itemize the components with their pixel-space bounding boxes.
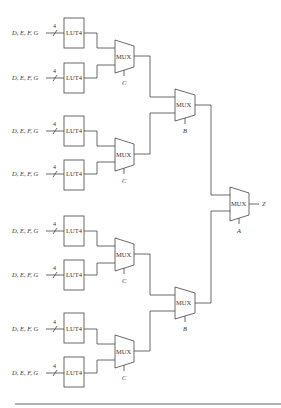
input-label: D, E, F, G bbox=[11, 325, 39, 332]
bus-width: 4 bbox=[53, 319, 56, 325]
input-label: D, E, F, G bbox=[11, 369, 39, 376]
lut-1: D, E, F, G 4 LUT4 bbox=[11, 18, 84, 48]
bus-width: 4 bbox=[53, 68, 56, 74]
select-label: B bbox=[183, 325, 187, 332]
bus-width: 4 bbox=[53, 164, 56, 170]
bottom-rule bbox=[15, 403, 281, 405]
mux-2: MUX C bbox=[115, 138, 134, 184]
bus-width: 4 bbox=[53, 121, 56, 127]
lut-label: LUT4 bbox=[66, 29, 83, 36]
mux-label: MUX bbox=[176, 101, 191, 108]
lut-label: LUT4 bbox=[66, 127, 83, 134]
lut-6: D, E, F, G 4 LUT4 bbox=[11, 260, 84, 290]
select-label: C bbox=[122, 374, 127, 381]
mux-label: MUX bbox=[116, 151, 131, 158]
output-label: Z bbox=[262, 200, 266, 207]
lut-label: LUT4 bbox=[66, 271, 83, 278]
bus-width: 4 bbox=[53, 265, 56, 271]
mux-7: MUX A Z bbox=[230, 187, 266, 234]
mux-3: MUX C bbox=[115, 238, 134, 284]
input-label: D, E, F, G bbox=[11, 29, 39, 36]
lut-mux-tree-diagram: D, E, F, G 4 LUT4 D, E, F, G 4 LUT4 D, E… bbox=[0, 0, 281, 408]
lut-3: D, E, F, G 4 LUT4 bbox=[11, 116, 84, 146]
lut-5: D, E, F, G 4 LUT4 bbox=[11, 216, 84, 246]
bus-width: 4 bbox=[53, 23, 56, 29]
mux-4: MUX C bbox=[115, 335, 134, 381]
select-label: C bbox=[122, 79, 127, 86]
lut-8: D, E, F, G 4 LUT4 bbox=[11, 357, 84, 387]
select-label: A bbox=[236, 227, 241, 234]
input-label: D, E, F, G bbox=[11, 127, 39, 134]
input-label: D, E, F, G bbox=[11, 74, 39, 81]
input-label: D, E, F, G bbox=[11, 170, 39, 177]
select-label: B bbox=[183, 127, 187, 134]
mux-label: MUX bbox=[116, 251, 131, 258]
lut-4: D, E, F, G 4 LUT4 bbox=[11, 160, 84, 190]
lut-label: LUT4 bbox=[66, 74, 83, 81]
bus-width: 4 bbox=[53, 363, 56, 369]
bus-width: 4 bbox=[53, 221, 56, 227]
select-label: C bbox=[122, 177, 127, 184]
lut-label: LUT4 bbox=[66, 227, 83, 234]
mux-label: MUX bbox=[116, 348, 131, 355]
lut-7: D, E, F, G 4 LUT4 bbox=[11, 313, 84, 343]
lut-2: D, E, F, G 4 LUT4 bbox=[11, 63, 84, 93]
mux-6: MUX B bbox=[175, 287, 195, 332]
select-label: C bbox=[122, 277, 127, 284]
input-label: D, E, F, G bbox=[11, 271, 39, 278]
mux-label: MUX bbox=[231, 200, 246, 207]
mux-label: MUX bbox=[176, 299, 191, 306]
lut-label: LUT4 bbox=[66, 170, 83, 177]
lut-label: LUT4 bbox=[66, 325, 83, 332]
mux-label: MUX bbox=[116, 53, 131, 60]
mux-1: MUX C bbox=[115, 40, 134, 86]
mux-5: MUX B bbox=[175, 89, 195, 134]
lut-label: LUT4 bbox=[66, 369, 83, 376]
input-label: D, E, F, G bbox=[11, 227, 39, 234]
